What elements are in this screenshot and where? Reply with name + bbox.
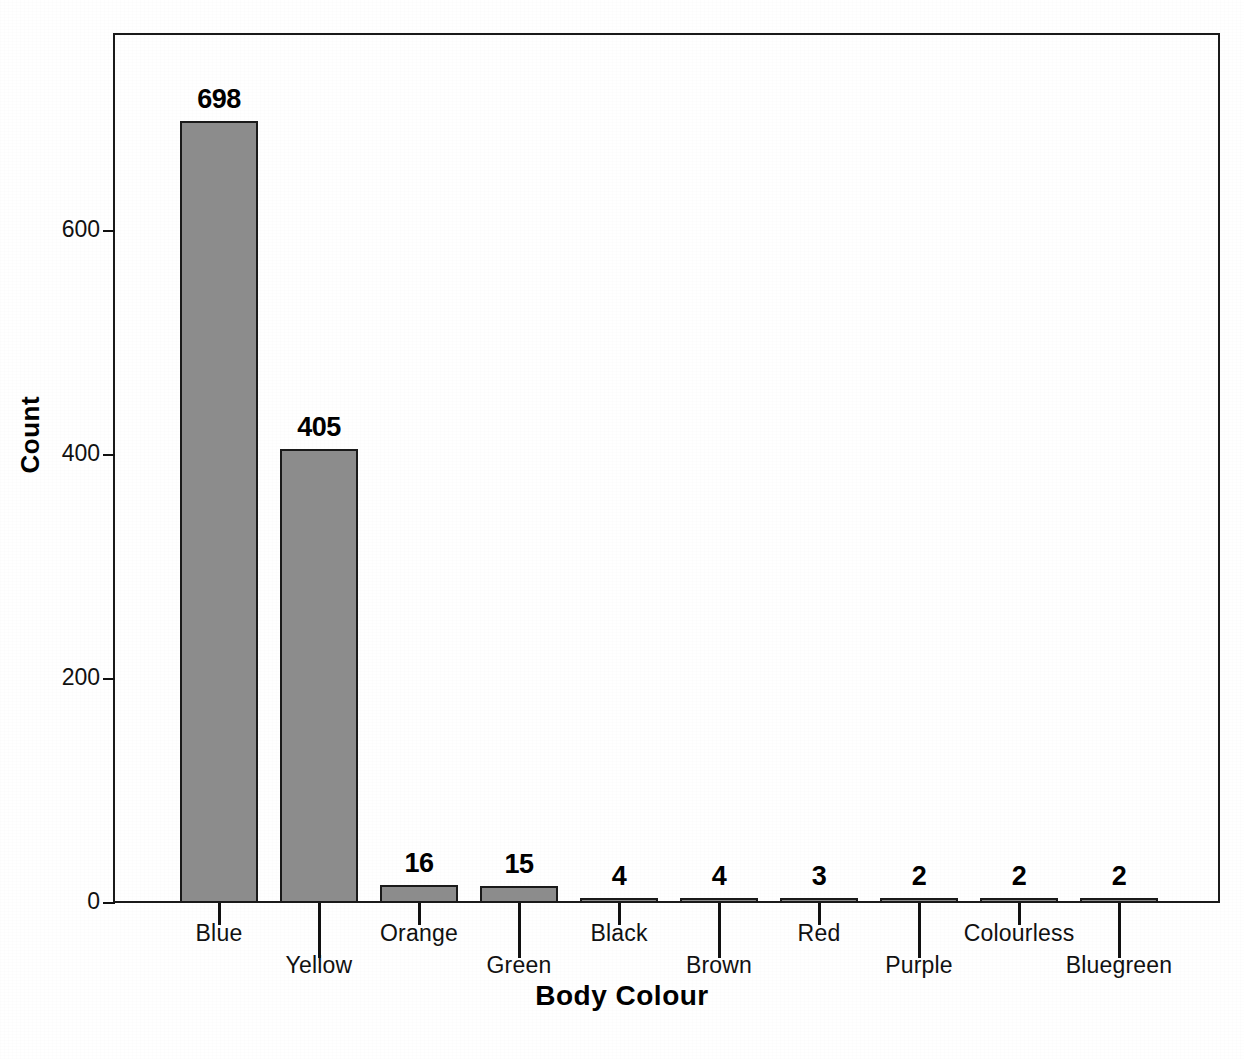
x-axis-tick-label-brown: Brown	[629, 952, 809, 979]
bar-chart: Count 0200400600 6984051615443222 BlueYe…	[0, 0, 1244, 1059]
bar-blue	[180, 121, 258, 903]
x-axis-tick-label-colourless: Colourless	[929, 920, 1109, 947]
x-axis-tick-label-blue: Blue	[129, 920, 309, 947]
x-axis-tick-label-bluegreen: Bluegreen	[1029, 952, 1209, 979]
bar-orange	[380, 885, 458, 903]
bar-value-label: 2	[1059, 861, 1179, 892]
y-axis-tick	[103, 230, 115, 232]
x-axis-tick-label-purple: Purple	[829, 952, 1009, 979]
x-axis-tick-label-green: Green	[429, 952, 609, 979]
bar-value-label: 405	[259, 412, 379, 443]
y-axis-tick	[103, 678, 115, 680]
y-axis-tick-label: 400	[40, 440, 100, 467]
x-axis-tick	[1118, 903, 1121, 958]
x-axis-tick	[918, 903, 921, 958]
bar-yellow	[280, 449, 358, 903]
y-axis-tick-label: 0	[40, 888, 100, 915]
x-axis-title: Body Colour	[0, 980, 1244, 1012]
x-axis-tick-label-black: Black	[529, 920, 709, 947]
x-axis-tick-label-orange: Orange	[329, 920, 509, 947]
x-axis-tick-label-yellow: Yellow	[229, 952, 409, 979]
bar-value-label: 698	[159, 84, 279, 115]
x-axis-tick	[718, 903, 721, 958]
bar-green	[480, 886, 558, 903]
x-axis-tick-label-red: Red	[729, 920, 909, 947]
y-axis-tick-label: 200	[40, 664, 100, 691]
x-axis-tick	[518, 903, 521, 958]
y-axis-tick	[103, 454, 115, 456]
y-axis-tick	[103, 902, 115, 904]
x-axis-tick	[318, 903, 321, 958]
y-axis-tick-label: 600	[40, 216, 100, 243]
